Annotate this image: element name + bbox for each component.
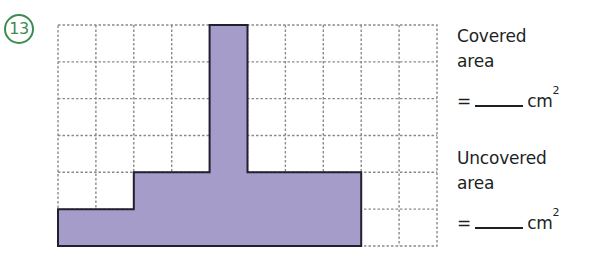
unit-text: cm bbox=[527, 91, 552, 111]
unit-exponent: 2 bbox=[553, 206, 560, 219]
equals-sign: = bbox=[457, 89, 471, 114]
covered-area-answer-blank[interactable] bbox=[475, 90, 523, 107]
uncovered-area-prompt: Uncovered area = cm2 bbox=[457, 146, 592, 236]
grid-figure bbox=[58, 25, 437, 246]
covered-area-unit: cm2 bbox=[527, 84, 559, 114]
unit-text: cm bbox=[527, 213, 552, 233]
covered-area-prompt: Covered area = cm2 bbox=[457, 24, 592, 114]
covered-area-answer-line: = cm2 bbox=[457, 84, 592, 114]
equals-sign: = bbox=[457, 211, 471, 236]
worksheet-page: 13 Covered area = cm2 Uncovered area = c… bbox=[0, 0, 594, 264]
covered-area-label: Covered area bbox=[457, 24, 592, 74]
grid-figure-svg bbox=[58, 25, 437, 246]
uncovered-area-answer-line: = cm2 bbox=[457, 206, 592, 236]
question-number-badge: 13 bbox=[4, 14, 34, 44]
uncovered-area-label: Uncovered area bbox=[457, 146, 592, 196]
uncovered-area-answer-blank[interactable] bbox=[475, 212, 523, 229]
uncovered-area-unit: cm2 bbox=[527, 206, 559, 236]
unit-exponent: 2 bbox=[553, 84, 560, 97]
